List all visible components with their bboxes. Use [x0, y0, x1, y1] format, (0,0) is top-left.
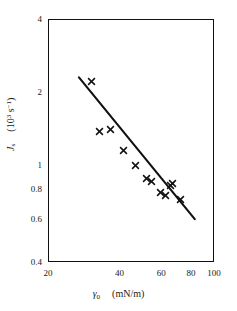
- data-point-marker: [168, 179, 177, 188]
- data-point-marker: [87, 77, 96, 86]
- x-tick-label: 40: [115, 268, 124, 278]
- x-axis-title: γ0 (mN/m): [0, 288, 237, 301]
- x-tick: [190, 255, 191, 262]
- y-tick-label: 0.8: [0, 184, 42, 194]
- x-tick: [119, 255, 120, 262]
- y-tick: [48, 262, 56, 263]
- x-tick-label: 20: [44, 268, 53, 278]
- data-point-marker: [147, 177, 156, 186]
- y-tick-right: [206, 188, 214, 189]
- y-tick-right: [206, 19, 214, 20]
- y-tick: [48, 49, 53, 50]
- data-point-marker: [95, 127, 104, 136]
- y-tick: [48, 176, 53, 177]
- data-point-marker: [161, 191, 170, 200]
- x-tick: [142, 258, 143, 263]
- x-tick-top: [48, 19, 49, 26]
- data-point-marker: [176, 195, 185, 204]
- x-tick-label: 80: [186, 268, 195, 278]
- y-tick: [48, 188, 56, 189]
- y-tick-right: [206, 219, 214, 220]
- y-tick-right: [210, 202, 215, 203]
- figure-canvas: 204060801000.40.60.8124 γ0 (mN/m) Js (10…: [0, 0, 237, 311]
- plot-frame: [48, 19, 214, 262]
- x-tick: [161, 255, 162, 262]
- y-tick: [48, 92, 56, 93]
- x-tick-top: [119, 19, 120, 26]
- x-tick-top: [203, 19, 204, 24]
- x-tick-top: [142, 19, 143, 24]
- y-tick-right: [206, 262, 214, 263]
- y-tick-right: [210, 176, 215, 177]
- x-tick-top: [190, 19, 191, 26]
- y-tick: [48, 19, 56, 20]
- x-tick-top: [161, 19, 162, 26]
- y-axis-title-unit: (103 s−1): [5, 98, 16, 132]
- x-axis-title-symbol: γ0: [93, 288, 100, 299]
- y-axis-title: Js (103 s−1): [5, 64, 18, 184]
- y-tick-right: [206, 92, 214, 93]
- data-point-marker: [131, 161, 140, 170]
- y-tick-right: [206, 165, 214, 166]
- y-tick: [48, 202, 53, 203]
- y-tick-right: [210, 238, 215, 239]
- x-tick-label: 60: [157, 268, 166, 278]
- x-tick-label: 100: [207, 268, 221, 278]
- y-tick: [48, 238, 53, 239]
- x-tick-top: [89, 19, 90, 24]
- y-tick-right: [210, 49, 215, 50]
- data-point-marker: [119, 146, 128, 155]
- y-tick-label: 4: [0, 14, 42, 24]
- x-tick: [177, 258, 178, 263]
- x-tick: [203, 258, 204, 263]
- y-tick-label: 0.6: [0, 214, 42, 224]
- x-tick: [89, 258, 90, 263]
- x-tick-top: [214, 19, 215, 26]
- y-tick: [48, 219, 56, 220]
- y-tick-label: 0.4: [0, 257, 42, 267]
- data-point-marker: [106, 125, 115, 134]
- x-axis-title-unit: (mN/m): [112, 288, 144, 299]
- y-axis-title-symbol: Js: [5, 144, 16, 151]
- x-tick-top: [177, 19, 178, 24]
- y-tick: [48, 165, 56, 166]
